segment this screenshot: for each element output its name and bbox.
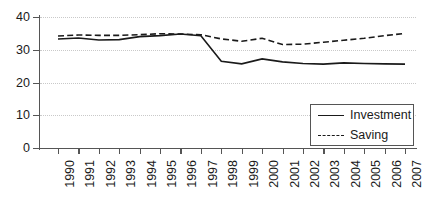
legend-item-investment: Investment bbox=[311, 105, 415, 126]
line-chart: 010203040 199019911992199319941995199619… bbox=[0, 0, 434, 211]
legend-solid-line-icon bbox=[316, 115, 346, 116]
legend-dashed-line-icon bbox=[316, 135, 346, 136]
legend-label-saving: Saving bbox=[350, 129, 388, 142]
series-line-saving bbox=[58, 33, 405, 44]
legend-item-saving: Saving bbox=[311, 125, 415, 146]
legend-label-investment: Investment bbox=[350, 109, 411, 122]
chart-legend: Investment Saving bbox=[310, 104, 414, 146]
series-line-investment bbox=[58, 34, 405, 64]
